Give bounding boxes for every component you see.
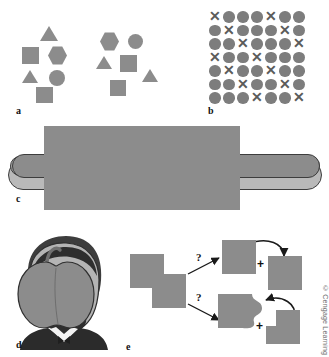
grid-cell-circle [292, 51, 306, 65]
L-shaped-piece [262, 310, 306, 357]
grid-cell-cross: ✕ [278, 78, 292, 92]
grid-cell-circle [208, 91, 222, 105]
lincoln-apple-illustration [0, 232, 128, 350]
complete-square-b [268, 256, 302, 290]
circle-icon [251, 11, 263, 23]
cross-icon: ✕ [222, 63, 236, 77]
grid-cell-circle [264, 91, 278, 105]
circle-icon [209, 92, 221, 104]
circle-icon [223, 11, 235, 23]
cross-icon: ✕ [292, 36, 306, 50]
shape-cluster-right [96, 32, 166, 100]
square-shape [36, 87, 53, 103]
circle-icon [251, 38, 263, 50]
circle-shape [128, 34, 143, 49]
circle-icon [237, 92, 249, 104]
rectangle-occluder [44, 126, 240, 210]
grid-cell-circle [208, 78, 222, 92]
hexagon-shape [48, 46, 67, 65]
panel-label-e: e [126, 342, 130, 352]
cross-icon: ✕ [264, 9, 278, 23]
grid-cell-circle [208, 64, 222, 78]
panel-label-c: c [16, 194, 20, 204]
circle-icon [251, 65, 263, 77]
grid-cell-circle [222, 78, 236, 92]
cross-icon: ✕ [208, 9, 222, 23]
panel-label-d: d [16, 340, 22, 350]
circle-icon [279, 52, 291, 64]
grid-cell-circle [278, 37, 292, 51]
circle-icon [279, 38, 291, 50]
cross-icon: ✕ [236, 36, 250, 50]
panel-b-texture-grid: ✕✕✕✕✕✕✕✕✕✕✕✕✕✕ b [188, 0, 328, 128]
panel-a-grouping: a [0, 0, 185, 128]
panel-e-ambiguous-overlap: ? ? + [126, 232, 306, 357]
square-shape [22, 47, 39, 64]
cross-icon: ✕ [222, 23, 236, 37]
cross-icon: ✕ [292, 90, 306, 104]
triangle-shape [142, 69, 158, 82]
cross-icon: ✕ [236, 77, 250, 91]
circle-icon [293, 11, 305, 23]
circle-icon [265, 79, 277, 91]
grid-cell-circle [264, 78, 278, 92]
grid-cell-cross: ✕ [278, 24, 292, 38]
plus-sign-top: + [257, 258, 264, 270]
cross-icon: ✕ [278, 77, 292, 91]
copyright-credit: © Cengage Learning [322, 285, 329, 355]
circle-icon [293, 65, 305, 77]
grid-cell-circle [250, 64, 264, 78]
texture-grid: ✕✕✕✕✕✕✕✕✕✕✕✕✕✕ [208, 10, 306, 105]
circle-icon [265, 25, 277, 37]
circle-icon [279, 11, 291, 23]
circle-icon [279, 92, 291, 104]
grid-cell-circle [264, 37, 278, 51]
hexagon-shape [100, 32, 119, 51]
circle-icon [209, 65, 221, 77]
circle-icon [293, 52, 305, 64]
panel-d-occluded-face: d [0, 232, 128, 357]
circle-icon [237, 52, 249, 64]
grid-cell-circle [222, 91, 236, 105]
square-shape [110, 80, 126, 96]
circle-icon [265, 92, 277, 104]
grid-cell-circle [278, 91, 292, 105]
grid-cell-cross: ✕ [236, 37, 250, 51]
circle-icon [209, 79, 221, 91]
grid-cell-cross: ✕ [292, 91, 306, 105]
circle-icon [209, 25, 221, 37]
circle-icon [279, 65, 291, 77]
panel-c-occluded-hotdog: c [0, 126, 328, 234]
grid-cell-cross: ✕ [208, 51, 222, 65]
triangle-shape [40, 26, 58, 41]
cross-icon: ✕ [250, 90, 264, 104]
circle-icon [237, 65, 249, 77]
grid-cell-circle [292, 10, 306, 24]
plus-sign-bottom: + [256, 320, 263, 332]
triangle-shape [22, 70, 38, 83]
grid-cell-circle [292, 64, 306, 78]
grid-cell-cross: ✕ [250, 91, 264, 105]
grid-cell-circle [208, 24, 222, 38]
arrow-to-bottom-interpretation [188, 304, 219, 320]
circle-icon [223, 92, 235, 104]
grid-cell-circle [236, 91, 250, 105]
grid-cell-cross: ✕ [264, 64, 278, 78]
grid-cell-circle [236, 10, 250, 24]
triangle-shape [96, 56, 112, 69]
grid-cell-cross: ✕ [222, 24, 236, 38]
shape-cluster-left [22, 26, 82, 98]
grid-cell-cross: ✕ [208, 10, 222, 24]
cross-icon: ✕ [208, 50, 222, 64]
circle-icon [237, 11, 249, 23]
panel-label-a: a [16, 106, 21, 116]
circle-shape [49, 70, 65, 86]
grid-cell-cross: ✕ [250, 51, 264, 65]
grid-cell-circle [250, 24, 264, 38]
cross-icon: ✕ [250, 50, 264, 64]
grid-cell-cross: ✕ [292, 37, 306, 51]
grid-cell-cross: ✕ [264, 10, 278, 24]
grid-cell-cross: ✕ [236, 78, 250, 92]
cross-icon: ✕ [278, 23, 292, 37]
grid-cell-circle [278, 51, 292, 65]
